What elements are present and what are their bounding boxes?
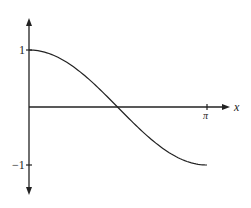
cosine-graph: 1 −1 π x xyxy=(0,0,251,208)
y-label-neg1: −1 xyxy=(12,158,25,172)
y-axis-down-arrow-icon xyxy=(26,187,32,195)
x-axis-right-arrow-icon xyxy=(222,104,230,110)
x-label-pi: π xyxy=(203,110,209,121)
y-label-1: 1 xyxy=(19,43,25,57)
y-axis-up-arrow-icon xyxy=(26,18,32,26)
x-axis-label: x xyxy=(233,100,240,114)
